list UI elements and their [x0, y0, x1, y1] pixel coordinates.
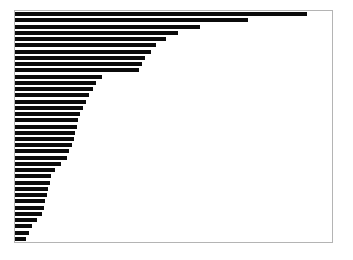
bar [15, 75, 102, 79]
bar [15, 68, 139, 72]
bar [15, 118, 78, 122]
bar [15, 56, 145, 60]
bar [15, 112, 80, 116]
bar [15, 181, 50, 185]
bar [15, 193, 47, 197]
bar [15, 37, 166, 41]
bar [15, 156, 67, 160]
bar [15, 93, 89, 97]
bar [15, 231, 29, 235]
bar [15, 50, 151, 54]
bar [15, 212, 42, 216]
bar [15, 62, 142, 66]
bar [15, 143, 72, 147]
bar [15, 199, 45, 203]
bar [15, 31, 178, 35]
bar [15, 131, 75, 135]
bar [15, 149, 69, 153]
bar [15, 18, 248, 22]
bar [15, 187, 48, 191]
bar [15, 237, 26, 241]
bar [15, 43, 156, 47]
bar [15, 106, 83, 110]
bar [15, 168, 55, 172]
bar [15, 137, 74, 141]
bar [15, 25, 200, 29]
bar [15, 12, 307, 16]
plot-area [14, 10, 333, 243]
bar-chart-figure [0, 0, 353, 260]
bar [15, 81, 96, 85]
bar-series [15, 11, 332, 242]
bar [15, 100, 86, 104]
bar [15, 218, 37, 222]
bar [15, 162, 61, 166]
bar [15, 206, 44, 210]
bar [15, 174, 51, 178]
bar [15, 87, 93, 91]
bar [15, 224, 32, 228]
bar [15, 125, 77, 129]
